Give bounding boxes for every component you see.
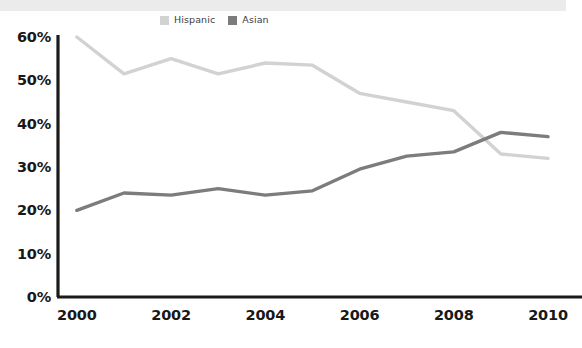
y-tick-60pct: 60%	[0, 29, 51, 45]
y-tick-20pct: 20%	[0, 202, 51, 218]
y-tick-40pct: 40%	[0, 116, 51, 132]
y-tick-label: 50%	[17, 72, 51, 88]
plot-area	[0, 0, 582, 348]
y-tick-label: 20%	[17, 202, 51, 218]
y-tick-label: 60%	[17, 29, 51, 45]
axis-lines	[57, 35, 582, 297]
y-tick-50pct: 50%	[0, 72, 51, 88]
y-tick-0pct: 0%	[0, 289, 51, 305]
x-tick-2008: 2008	[434, 307, 474, 323]
line-series-asian	[77, 132, 548, 210]
chart-container: Hispanic Asian 0%10%20%30%40%50%60% 2000…	[0, 0, 582, 348]
x-tick-2010: 2010	[528, 307, 568, 323]
line-series-hispanic	[77, 37, 548, 158]
series-lines	[77, 37, 548, 210]
x-tick-2006: 2006	[340, 307, 380, 323]
x-tick-2002: 2002	[151, 307, 191, 323]
y-tick-label: 10%	[17, 246, 51, 262]
y-tick-10pct: 10%	[0, 246, 51, 262]
x-tick-2004: 2004	[246, 307, 286, 323]
x-tick-2000: 2000	[57, 307, 97, 323]
y-tick-label: 40%	[17, 116, 51, 132]
y-tick-label: 0%	[27, 289, 51, 305]
y-tick-30pct: 30%	[0, 159, 51, 175]
y-tick-label: 30%	[17, 159, 51, 175]
